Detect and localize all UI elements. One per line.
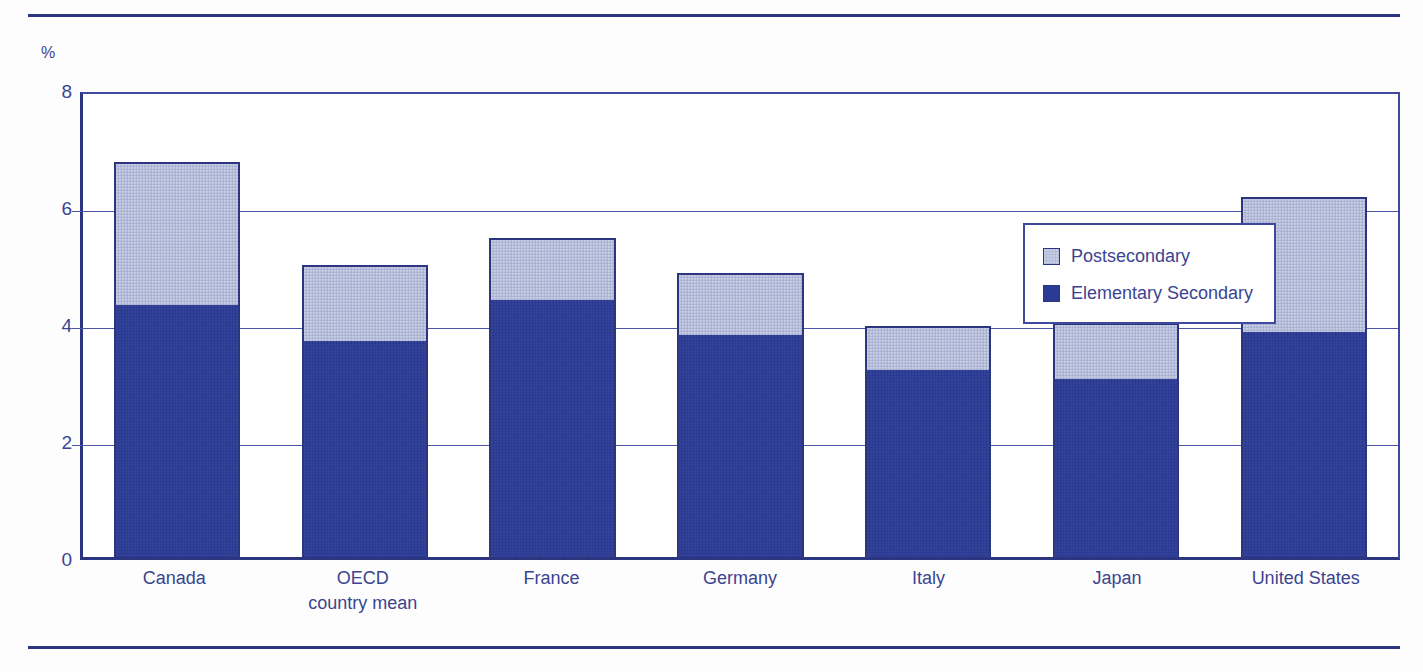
bar-group bbox=[114, 94, 240, 557]
legend-label-postsecondary: Postsecondary bbox=[1071, 246, 1190, 267]
legend: Postsecondary Elementary Secondary bbox=[1023, 223, 1276, 324]
x-axis-label-line2: country mean bbox=[299, 591, 426, 616]
bar-segment-postsecondary bbox=[116, 164, 238, 307]
y-axis-tick-2: 2 bbox=[38, 432, 72, 454]
x-axis-label-france: France bbox=[488, 566, 615, 591]
legend-entry-postsecondary: Postsecondary bbox=[1043, 238, 1274, 275]
x-axis-label-line1: Canada bbox=[143, 568, 206, 588]
bar-segment-elementary-secondary bbox=[304, 341, 426, 557]
y-axis-tick-stub-6 bbox=[72, 211, 83, 212]
stacked-bar bbox=[489, 238, 615, 557]
y-axis-tick-6: 6 bbox=[38, 198, 72, 220]
x-axis-label-united-states: United States bbox=[1242, 566, 1369, 591]
plot-area: Postsecondary Elementary Secondary bbox=[80, 92, 1400, 560]
bar-segment-postsecondary bbox=[304, 267, 426, 343]
x-axis-label-germany: Germany bbox=[677, 566, 804, 591]
bar-group bbox=[865, 94, 991, 557]
x-axis-label-line1: Germany bbox=[703, 568, 777, 588]
y-axis-tick-8: 8 bbox=[38, 81, 72, 103]
bar-segment-elementary-secondary bbox=[867, 370, 989, 557]
bar-segment-elementary-secondary bbox=[1055, 379, 1177, 557]
bar-segment-postsecondary bbox=[867, 328, 989, 372]
x-axis-label-canada: Canada bbox=[111, 566, 238, 591]
x-axis-label-oecd-country-mean: OECDcountry mean bbox=[299, 566, 426, 616]
bar-series-container bbox=[83, 94, 1398, 557]
legend-swatch-elementary-secondary-icon bbox=[1043, 285, 1060, 302]
y-axis-tick-stub-4 bbox=[72, 328, 83, 329]
stacked-bar bbox=[302, 265, 428, 558]
y-axis-tick-stub-2 bbox=[72, 445, 83, 446]
bar-segment-elementary-secondary bbox=[116, 305, 238, 557]
x-axis-label-line1: United States bbox=[1252, 568, 1360, 588]
y-axis-tick-4: 4 bbox=[38, 315, 72, 337]
stacked-bar bbox=[114, 162, 240, 557]
legend-swatch-postsecondary-icon bbox=[1043, 248, 1060, 265]
bar-group bbox=[1241, 94, 1367, 557]
stacked-bar bbox=[677, 273, 803, 557]
chart-figure: % 02468 Postsecondary Elementary Seconda… bbox=[0, 0, 1423, 672]
bar-group bbox=[1053, 94, 1179, 557]
top-divider-rule bbox=[28, 14, 1400, 17]
bottom-divider-rule bbox=[28, 646, 1400, 649]
x-axis-label-italy: Italy bbox=[865, 566, 992, 591]
x-axis-label-line1: OECD bbox=[337, 568, 389, 588]
x-axis-label-line1: Italy bbox=[912, 568, 945, 588]
bar-segment-elementary-secondary bbox=[491, 300, 613, 557]
y-axis-tick-0: 0 bbox=[38, 549, 72, 571]
legend-entry-elementary-secondary: Elementary Secondary bbox=[1043, 275, 1274, 312]
legend-label-elementary-secondary: Elementary Secondary bbox=[1071, 283, 1253, 304]
bar-group bbox=[677, 94, 803, 557]
y-axis-tick-labels: 02468 bbox=[0, 0, 72, 672]
bar-segment-postsecondary bbox=[679, 275, 801, 336]
bar-group bbox=[489, 94, 615, 557]
x-axis-label-japan: Japan bbox=[1054, 566, 1181, 591]
bar-segment-postsecondary bbox=[491, 240, 613, 301]
bar-group bbox=[302, 94, 428, 557]
bar-segment-elementary-secondary bbox=[679, 335, 801, 557]
bar-segment-postsecondary bbox=[1055, 325, 1177, 381]
x-axis-label-line1: Japan bbox=[1093, 568, 1142, 588]
stacked-bar bbox=[1053, 323, 1179, 557]
bar-segment-elementary-secondary bbox=[1243, 332, 1365, 557]
x-axis-label-line1: France bbox=[523, 568, 579, 588]
stacked-bar bbox=[865, 326, 991, 557]
x-axis-category-labels: CanadaOECDcountry meanFranceGermanyItaly… bbox=[80, 566, 1400, 646]
